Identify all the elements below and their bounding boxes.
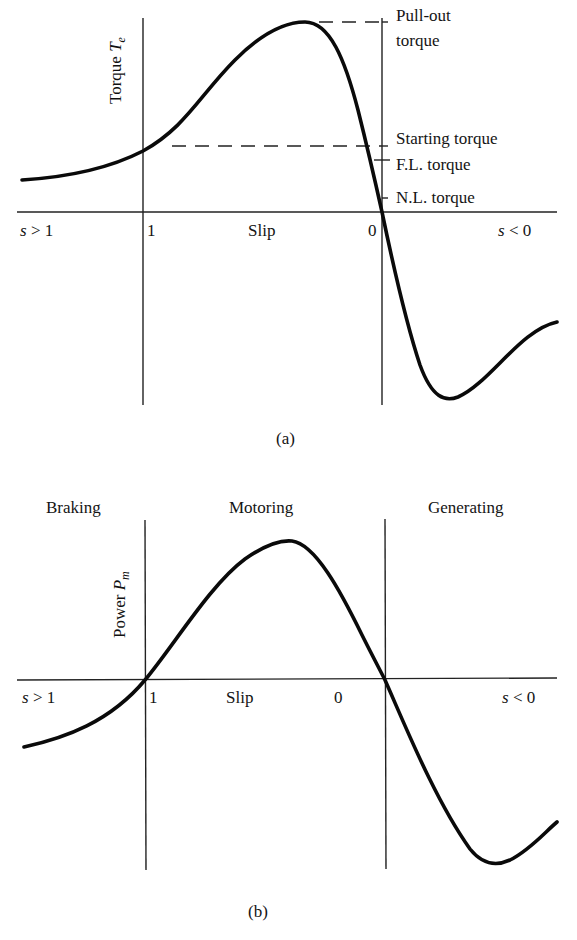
motoring-region-label: Motoring: [229, 499, 293, 516]
tick-1-label-b: 1: [149, 689, 158, 706]
torque-curve: [22, 22, 557, 399]
panel-b-axes: [17, 519, 557, 870]
caption-a: (a): [276, 430, 295, 447]
power-curve: [24, 541, 557, 864]
generating-region-label: Generating: [428, 499, 504, 516]
slip-axis-b: [17, 678, 557, 680]
s-lt-0-label-a: s < 0: [498, 222, 531, 239]
s-gt-1-label-b: s > 1: [22, 689, 55, 706]
pullout-label-line1: Pull-out: [396, 7, 451, 24]
tick-0-label-b: 0: [334, 689, 343, 706]
torque-axis-label: Torque Te: [106, 37, 129, 104]
fl-torque-label: F.L. torque: [396, 156, 471, 173]
power-axis-label: Power Pm: [110, 571, 133, 638]
s0-vertical-b: [385, 519, 386, 869]
nl-torque-label: N.L. torque: [396, 189, 475, 206]
slip-label-b: Slip: [226, 689, 253, 706]
pullout-label-line2: torque: [396, 32, 439, 49]
tick-1-label-a: 1: [147, 222, 156, 239]
braking-region-label: Braking: [46, 499, 101, 516]
s-gt-1-label-a: s > 1: [20, 222, 53, 239]
panel-a-axes: [17, 18, 557, 405]
caption-b: (b): [248, 903, 268, 920]
s1-vertical-b: [145, 520, 146, 870]
s-lt-0-label-b: s < 0: [502, 689, 535, 706]
starting-torque-label: Starting torque: [396, 130, 498, 147]
slip-label-a: Slip: [248, 222, 275, 239]
tick-0-label-a: 0: [368, 222, 377, 239]
